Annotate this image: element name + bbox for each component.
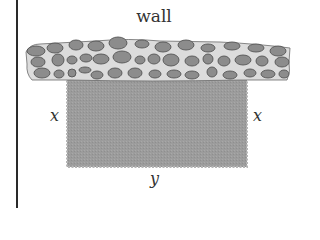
- stone-wall: [26, 37, 290, 81]
- side-label-left-x: x: [50, 108, 59, 124]
- side-label-bottom-y: y: [150, 171, 159, 187]
- side-label-right-x: x: [253, 108, 262, 124]
- field-rectangle: [67, 76, 247, 167]
